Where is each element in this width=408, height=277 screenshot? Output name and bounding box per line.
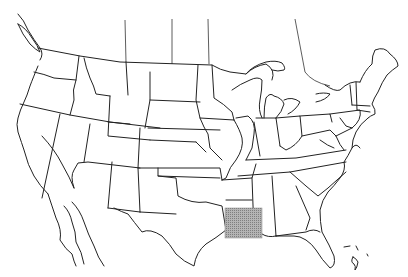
us-outline-map bbox=[0, 0, 408, 277]
highlighted-region bbox=[225, 208, 262, 238]
coastline-and-borders bbox=[17, 14, 398, 270]
